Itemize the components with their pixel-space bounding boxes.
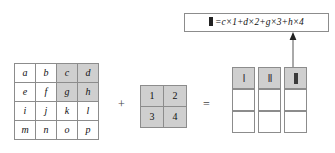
convolution-kernel: 1 2 3 4 [140,85,186,127]
output-column-1: I [232,67,255,133]
input-cell: h [77,82,99,102]
output-cell: II [258,67,281,89]
input-cell: i [14,101,36,121]
output-formula-callout: =c×1+d×2+g×3+h×4 [184,13,329,32]
input-feature-map: a b c d e f g h i j k l m n o p [14,63,98,139]
input-cell: l [77,101,99,121]
kernel-cell: 4 [163,106,187,128]
input-cell: m [14,120,36,140]
output-cell [284,111,307,133]
kernel-cell: 3 [140,106,164,128]
plus-operator: + [118,98,125,110]
output-cell [284,89,307,111]
input-cell: o [56,120,78,140]
formula-lead-bar-icon [209,17,213,26]
input-cell: b [35,63,57,83]
output-cell [232,89,255,111]
formula-expression: =c×1+d×2+g×3+h×4 [215,17,304,27]
input-cell: p [77,120,99,140]
output-mark-thick-bar-icon [294,73,298,84]
kernel-cell: 1 [140,85,164,107]
input-cell: j [35,101,57,121]
input-cell: n [35,120,57,140]
callout-arrow-icon [286,32,300,70]
equals-operator: = [203,98,210,110]
input-cell: g [56,82,78,102]
output-cell-highlighted [284,67,307,89]
input-cell: d [77,63,99,83]
diagram-canvas: =c×1+d×2+g×3+h×4 a b c d e f g h i j k l… [0,0,335,153]
output-cell [258,89,281,111]
output-cell [258,111,281,133]
formula-text: =c×1+d×2+g×3+h×4 [209,17,304,28]
output-cell [232,111,255,133]
output-cell: I [232,67,255,89]
output-mark-icon: I [242,73,244,84]
input-cell: k [56,101,78,121]
input-cell: c [56,63,78,83]
input-cell: e [14,82,36,102]
output-column-3 [284,67,307,133]
input-cell: a [14,63,36,83]
kernel-cell: 2 [163,85,187,107]
input-cell: f [35,82,57,102]
output-column-2: II [258,67,281,133]
output-mark-icon: II [267,73,271,84]
